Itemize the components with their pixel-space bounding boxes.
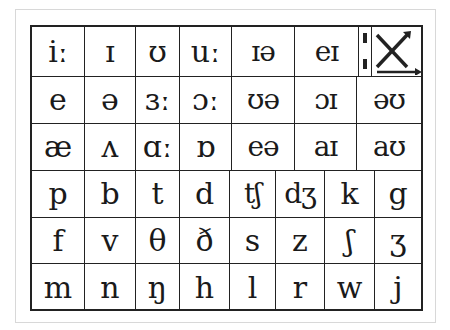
phoneme-cell[interactable]: ʊ — [136, 27, 180, 76]
phoneme-cell[interactable]: eɪ — [295, 27, 359, 76]
phoneme-cell[interactable]: b — [85, 171, 136, 217]
phoneme-cell[interactable]: w — [325, 264, 375, 311]
phoneme-cell[interactable]: ŋ — [136, 264, 180, 311]
phoneme-cell[interactable]: ʒ — [375, 218, 421, 263]
length-marker-cell[interactable] — [359, 27, 421, 76]
phoneme-cell[interactable]: t — [136, 171, 180, 217]
chart-row-2: e ə ɜː ɔː ʊə ɔɪ əʊ — [32, 77, 421, 124]
phoneme-cell[interactable]: m — [32, 264, 85, 311]
ipa-chart: iː ɪ ʊ uː ɪə eɪ e ə ɜː ɔː ʊə ɔɪ əʊ — [30, 25, 423, 311]
phoneme-cell[interactable]: æ — [32, 124, 85, 170]
phoneme-cell[interactable]: f — [32, 218, 85, 263]
phoneme-cell[interactable]: ɔɪ — [295, 77, 357, 123]
phoneme-cell[interactable]: e — [32, 77, 85, 123]
phoneme-cell[interactable]: ʌ — [85, 124, 136, 170]
phoneme-cell[interactable]: ɔː — [180, 77, 232, 123]
phoneme-cell[interactable]: ʊə — [232, 77, 295, 123]
phoneme-cell[interactable]: dʒ — [276, 171, 325, 217]
phoneme-cell[interactable]: ɪə — [232, 27, 295, 76]
length-mark-icon — [363, 33, 367, 69]
phoneme-cell[interactable]: ʃ — [325, 218, 375, 263]
phoneme-cell[interactable]: aʊ — [357, 124, 421, 170]
phoneme-cell[interactable]: z — [276, 218, 325, 263]
phoneme-cell[interactable]: ɑː — [136, 124, 180, 170]
cell-divider — [371, 27, 372, 76]
phoneme-cell[interactable]: ɜː — [136, 77, 180, 123]
chart-row-1: iː ɪ ʊ uː ɪə eɪ — [32, 27, 421, 77]
phoneme-cell[interactable]: uː — [180, 27, 232, 76]
phoneme-cell[interactable]: v — [85, 218, 136, 263]
phoneme-cell[interactable]: l — [230, 264, 276, 311]
phoneme-cell[interactable]: ɪ — [85, 27, 136, 76]
phoneme-cell[interactable]: h — [180, 264, 230, 311]
phoneme-cell[interactable]: d — [180, 171, 230, 217]
phoneme-cell[interactable]: θ — [136, 218, 180, 263]
chart-row-4: p b t d tʃ dʒ k g — [32, 171, 421, 218]
phoneme-cell[interactable]: eə — [232, 124, 295, 170]
phoneme-cell[interactable]: ð — [180, 218, 230, 263]
phoneme-cell[interactable]: aɪ — [295, 124, 357, 170]
phoneme-cell[interactable]: r — [276, 264, 325, 311]
phoneme-cell[interactable]: tʃ — [230, 171, 276, 217]
chart-row-6: m n ŋ h l r w j — [32, 264, 421, 311]
phoneme-cell[interactable]: əʊ — [357, 77, 421, 123]
phoneme-cell[interactable]: j — [375, 264, 421, 311]
phoneme-cell[interactable]: ɒ — [180, 124, 232, 170]
phoneme-cell[interactable]: k — [325, 171, 375, 217]
phoneme-cell[interactable]: iː — [32, 27, 85, 76]
phoneme-cell[interactable]: s — [230, 218, 276, 263]
x-arrows-icon — [373, 29, 421, 75]
phoneme-cell[interactable]: g — [375, 171, 421, 217]
phoneme-cell[interactable]: p — [32, 171, 85, 217]
chart-row-3: æ ʌ ɑː ɒ eə aɪ aʊ — [32, 124, 421, 171]
phoneme-cell[interactable]: ə — [85, 77, 136, 123]
phoneme-cell[interactable]: n — [85, 264, 136, 311]
chart-row-5: f v θ ð s z ʃ ʒ — [32, 218, 421, 264]
